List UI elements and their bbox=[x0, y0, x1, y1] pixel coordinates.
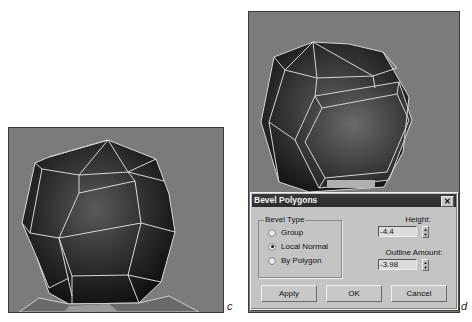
viewport-c[interactable] bbox=[8, 127, 224, 313]
radio-local-normal-label: Local Normal bbox=[281, 242, 328, 251]
height-spinner-arrows[interactable]: ▲▼ bbox=[422, 226, 429, 238]
bevel-type-group: Bevel Type Group Local Normal By Polygon bbox=[258, 220, 342, 278]
radio-group-button[interactable] bbox=[268, 229, 276, 237]
close-icon: ✕ bbox=[444, 197, 451, 206]
outline-amount-input[interactable]: -3.98 bbox=[378, 259, 417, 270]
height-label: Height: bbox=[383, 215, 453, 224]
radio-group[interactable]: Group bbox=[268, 227, 303, 238]
cancel-button[interactable]: Cancel bbox=[391, 285, 447, 302]
height-spinner: -4.4 ▲▼ bbox=[378, 226, 429, 237]
radio-by-polygon-button[interactable] bbox=[268, 257, 276, 265]
dialog-titlebar[interactable]: Bevel Polygons ✕ bbox=[252, 194, 456, 207]
head-mesh-render bbox=[9, 128, 223, 312]
radio-group-label: Group bbox=[281, 228, 303, 237]
dialog-title: Bevel Polygons bbox=[254, 195, 317, 205]
radio-by-polygon-label: By Polygon bbox=[281, 256, 321, 265]
radio-local-normal-button[interactable] bbox=[268, 243, 276, 251]
ok-button[interactable]: OK bbox=[326, 285, 382, 302]
bevel-type-legend: Bevel Type bbox=[264, 215, 305, 224]
apply-button[interactable]: Apply bbox=[261, 285, 317, 302]
outline-amount-label: Outline Amount: bbox=[379, 248, 449, 257]
bevel-polygons-dialog: Bevel Polygons ✕ Bevel Type Group Local … bbox=[250, 192, 458, 310]
panel-label-d: d bbox=[461, 300, 467, 312]
radio-local-normal[interactable]: Local Normal bbox=[268, 241, 328, 252]
outline-amount-spinner-arrows[interactable]: ▲▼ bbox=[422, 259, 429, 271]
radio-by-polygon[interactable]: By Polygon bbox=[268, 255, 321, 266]
panel-label-c: c bbox=[227, 300, 233, 312]
outline-amount-spinner: -3.98 ▲▼ bbox=[378, 259, 429, 270]
height-input[interactable]: -4.4 bbox=[378, 226, 417, 237]
close-button[interactable]: ✕ bbox=[441, 196, 454, 207]
